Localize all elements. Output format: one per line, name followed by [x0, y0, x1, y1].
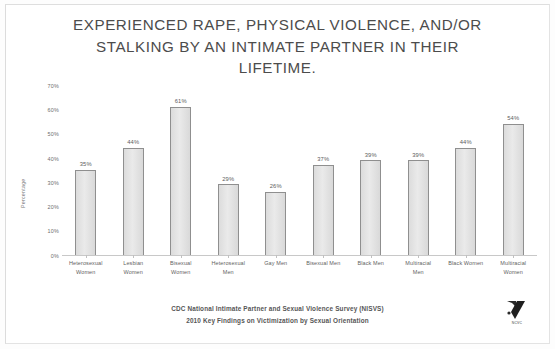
bar-value-label: 54%: [507, 115, 519, 121]
footer-source-line-2: 2010 Key Findings on Victimization by Se…: [6, 315, 549, 327]
x-axis-label: HeterosexualWomen: [62, 259, 110, 278]
bar-value-label: 39%: [412, 152, 424, 158]
bar: [408, 160, 429, 255]
bar-slot: 61%: [157, 86, 205, 255]
bar: [455, 148, 476, 255]
logo-caption: NCVC: [504, 321, 530, 325]
y-axis-title: Percentage: [20, 178, 26, 208]
footer: CDC National Intimate Partner and Sexual…: [6, 303, 549, 327]
bar-slot: 37%: [300, 86, 348, 255]
x-axis-tick: [466, 255, 467, 258]
bar-value-label: 26%: [270, 183, 282, 189]
x-axis-label: Gay Men: [252, 259, 300, 278]
bar-slot: 29%: [205, 86, 253, 255]
x-axis-tick: [371, 255, 372, 258]
bar-slot: 35%: [62, 86, 110, 255]
y-axis-tick: 60%: [48, 107, 59, 113]
bar-value-label: 44%: [127, 139, 139, 145]
bar-slot: 39%: [395, 86, 443, 255]
bar: [123, 148, 144, 255]
bar: [360, 160, 381, 255]
page-title: EXPERIENCED RAPE, PHYSICAL VIOLENCE, AND…: [58, 14, 497, 79]
plot-wrapper: 0%10%20%30%40%50%60%70% 35%44%61%29%26%3…: [36, 86, 537, 286]
y-axis-tick: 40%: [48, 156, 59, 162]
bar: [75, 170, 96, 255]
bar-slot: 44%: [442, 86, 490, 255]
x-axis-tick: [86, 255, 87, 258]
bar: [170, 107, 191, 255]
x-axis-tick: [323, 255, 324, 258]
y-axis-ticks: 0%10%20%30%40%50%60%70%: [36, 86, 62, 256]
title-block: EXPERIENCED RAPE, PHYSICAL VIOLENCE, AND…: [6, 5, 549, 81]
y-axis-tick: 50%: [48, 131, 59, 137]
bar-slot: 26%: [252, 86, 300, 255]
bar: [503, 124, 524, 255]
x-axis-label: MultiracialWomen: [490, 259, 538, 278]
y-axis-tick: 0%: [51, 253, 59, 259]
bar-value-label: 61%: [175, 98, 187, 104]
bar-value-label: 35%: [80, 161, 92, 167]
x-axis-tick: [133, 255, 134, 258]
bar-slot: 54%: [490, 86, 538, 255]
x-axis-tick: [418, 255, 419, 258]
bar-value-label: 39%: [365, 152, 377, 158]
organization-logo: NCVC: [504, 300, 530, 326]
slide: EXPERIENCED RAPE, PHYSICAL VIOLENCE, AND…: [0, 0, 555, 349]
bar-slot: 44%: [110, 86, 158, 255]
x-axis-label: LesbianWomen: [110, 259, 158, 278]
y-axis-tick: 30%: [48, 180, 59, 186]
bar-value-label: 37%: [317, 156, 329, 162]
x-axis-label: Black Men: [347, 259, 395, 278]
bar-value-label: 29%: [222, 176, 234, 182]
footer-source-line-1: CDC National Intimate Partner and Sexual…: [6, 303, 549, 315]
bar-slot: 39%: [347, 86, 395, 255]
bar-chart: Percentage 0%10%20%30%40%50%60%70% 35%44…: [6, 86, 549, 286]
x-axis-label: Black Women: [442, 259, 490, 278]
y-axis-tick: 70%: [48, 83, 59, 89]
logo-mark-icon: [504, 300, 530, 320]
x-axis-tick: [181, 255, 182, 258]
x-axis-tick: [276, 255, 277, 258]
x-axis-label: Bisexual Men: [300, 259, 348, 278]
bar: [218, 184, 239, 254]
bar-series: 35%44%61%29%26%37%39%39%44%54%: [62, 86, 537, 255]
y-axis-tick: 20%: [48, 204, 59, 210]
bar-value-label: 44%: [460, 139, 472, 145]
x-axis-label: BisexualWomen: [157, 259, 205, 278]
slide-content: EXPERIENCED RAPE, PHYSICAL VIOLENCE, AND…: [5, 4, 550, 344]
x-axis-label: HeterosexualMen: [205, 259, 253, 278]
x-axis-label: MultiracialMen: [395, 259, 443, 278]
bar: [265, 192, 286, 255]
x-axis-tick: [228, 255, 229, 258]
x-axis-labels: HeterosexualWomenLesbianWomenBisexualWom…: [62, 259, 537, 278]
plot-area: 35%44%61%29%26%37%39%39%44%54%: [62, 86, 537, 256]
x-axis-tick: [513, 255, 514, 258]
y-axis-tick: 10%: [48, 228, 59, 234]
bar: [313, 165, 334, 255]
